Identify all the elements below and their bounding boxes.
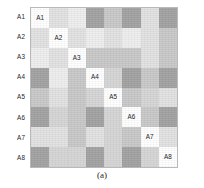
heatmap-cell-r4-c5 xyxy=(104,68,122,88)
heatmap-cell-r7-c5 xyxy=(104,127,122,147)
row-label-a4: A4 xyxy=(4,67,28,87)
heatmap-cell-r4-c8 xyxy=(159,68,177,88)
heatmap-cell-r6-c4 xyxy=(86,107,104,127)
heatmap-cell-r5-c6 xyxy=(122,88,140,108)
heatmap-cell-r6-c1 xyxy=(31,107,49,127)
heatmap-cell-r8-c6 xyxy=(122,147,140,167)
cell-label: A1 xyxy=(36,15,44,21)
heatmap-cell-r4-c6 xyxy=(122,68,140,88)
heatmap-cell-r4-c1 xyxy=(31,68,49,88)
heatmap-cell-r1-c8 xyxy=(159,8,177,28)
heatmap-cell-r8-c8: A8 xyxy=(159,147,177,167)
figure-container: A1A2A3A4A5A6A7A8 A1A2A3A4A5A6A7A8 (a) xyxy=(0,0,204,188)
cell-label: A4 xyxy=(91,74,99,80)
heatmap-cell-r2-c3 xyxy=(68,28,86,48)
row-label-a1: A1 xyxy=(4,7,28,27)
heatmap-cell-r5-c8 xyxy=(159,88,177,108)
heatmap-cell-r5-c5: A5 xyxy=(104,88,122,108)
heatmap-cell-r8-c7 xyxy=(141,147,159,167)
heatmap-cell-r2-c1 xyxy=(31,28,49,48)
heatmap-cell-r2-c4 xyxy=(86,28,104,48)
heatmap-cell-r4-c7 xyxy=(141,68,159,88)
heatmap-cell-r2-c2: A2 xyxy=(49,28,67,48)
heatmap-cell-r6-c8 xyxy=(159,107,177,127)
heatmap-cell-r4-c3 xyxy=(68,68,86,88)
cell-label: A6 xyxy=(127,114,135,120)
row-label-axis: A1A2A3A4A5A6A7A8 xyxy=(4,7,28,168)
heatmap-cell-r2-c6 xyxy=(122,28,140,48)
figure-caption: (a) xyxy=(0,170,204,180)
heatmap-cell-r8-c5 xyxy=(104,147,122,167)
heatmap-cell-r2-c8 xyxy=(159,28,177,48)
heatmap-cell-r7-c1 xyxy=(31,127,49,147)
row-label-a7: A7 xyxy=(4,128,28,148)
heatmap-cell-r3-c3: A3 xyxy=(68,48,86,68)
cell-label: A3 xyxy=(73,55,81,61)
heatmap-cell-r1-c1: A1 xyxy=(31,8,49,28)
row-label-a8: A8 xyxy=(4,148,28,168)
cell-label: A7 xyxy=(146,134,154,140)
heatmap-cell-r1-c5 xyxy=(104,8,122,28)
row-label-a3: A3 xyxy=(4,47,28,67)
heatmap-cell-r6-c3 xyxy=(68,107,86,127)
heatmap-cell-r7-c4 xyxy=(86,127,104,147)
cell-label: A5 xyxy=(109,94,117,100)
heatmap-cell-r2-c5 xyxy=(104,28,122,48)
heatmap-cell-r8-c1 xyxy=(31,147,49,167)
heatmap-cell-r8-c2 xyxy=(49,147,67,167)
heatmap-cell-r8-c3 xyxy=(68,147,86,167)
heatmap-cell-r7-c7: A7 xyxy=(141,127,159,147)
heatmap-cell-r5-c2 xyxy=(49,88,67,108)
heatmap-cell-r3-c7 xyxy=(141,48,159,68)
heatmap-cell-r3-c8 xyxy=(159,48,177,68)
heatmap-cell-r3-c6 xyxy=(122,48,140,68)
heatmap-cell-r8-c4 xyxy=(86,147,104,167)
heatmap-cell-r3-c4 xyxy=(86,48,104,68)
heatmap-cell-r3-c1 xyxy=(31,48,49,68)
heatmap-cell-r4-c2 xyxy=(49,68,67,88)
heatmap-cell-r6-c2 xyxy=(49,107,67,127)
cell-label: A8 xyxy=(164,154,172,160)
heatmap-cell-r7-c8 xyxy=(159,127,177,147)
heatmap-cell-r7-c3 xyxy=(68,127,86,147)
cell-label: A2 xyxy=(54,35,62,41)
row-label-a5: A5 xyxy=(4,88,28,108)
heatmap-cell-r5-c4 xyxy=(86,88,104,108)
heatmap-cell-r7-c2 xyxy=(49,127,67,147)
heatmap-cell-r6-c7 xyxy=(141,107,159,127)
heatmap-cell-r2-c7 xyxy=(141,28,159,48)
heatmap-cell-r5-c7 xyxy=(141,88,159,108)
heatmap-cell-r7-c6 xyxy=(122,127,140,147)
heatmap-cell-r6-c5 xyxy=(104,107,122,127)
row-label-a6: A6 xyxy=(4,108,28,128)
heatmap-cell-r1-c3 xyxy=(68,8,86,28)
heatmap-cell-r3-c5 xyxy=(104,48,122,68)
heatmap-cell-r6-c6: A6 xyxy=(122,107,140,127)
heatmap-cell-r3-c2 xyxy=(49,48,67,68)
row-label-a2: A2 xyxy=(4,27,28,47)
heatmap-cell-r1-c7 xyxy=(141,8,159,28)
heatmap-cell-r1-c6 xyxy=(122,8,140,28)
heatmap-cell-r1-c4 xyxy=(86,8,104,28)
heatmap-cell-r5-c1 xyxy=(31,88,49,108)
heatmap-cell-r5-c3 xyxy=(68,88,86,108)
heatmap-matrix: A1A2A3A4A5A6A7A8 xyxy=(30,7,178,168)
heatmap-cell-r4-c4: A4 xyxy=(86,68,104,88)
heatmap-cell-r1-c2 xyxy=(49,8,67,28)
